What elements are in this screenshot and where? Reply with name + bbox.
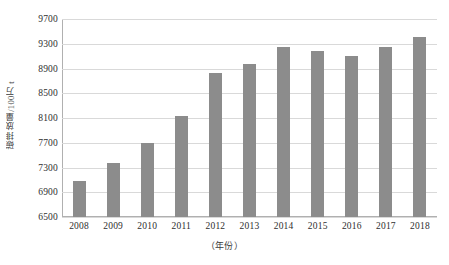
y-axis-tick-label: 7300 — [18, 163, 58, 173]
y-axis-tick-label: 6500 — [18, 212, 58, 222]
x-axis-tick-label: 2013 — [232, 221, 266, 237]
bar-slot — [62, 19, 96, 217]
plot-area — [62, 19, 437, 217]
bar-2014[interactable] — [277, 47, 290, 217]
y-axis-tick-label: 8100 — [18, 113, 58, 123]
x-axis-tick-label: 2010 — [130, 221, 164, 237]
bar-2016[interactable] — [345, 56, 358, 217]
y-axis-tick-label: 9300 — [18, 39, 58, 49]
x-axis-tick-label: 2012 — [198, 221, 232, 237]
x-axis-tick-label: 2018 — [403, 221, 437, 237]
x-axis-tick-labels: 2008200920102011201220132014201520162017… — [62, 221, 437, 237]
bar-2010[interactable] — [141, 143, 154, 217]
x-axis-tick-label: 2011 — [164, 221, 198, 237]
bar-slot — [232, 19, 266, 217]
bar-2009[interactable] — [107, 163, 120, 217]
bar-slot — [301, 19, 335, 217]
bar-2013[interactable] — [243, 64, 256, 217]
bar-2012[interactable] — [209, 73, 222, 217]
bar-slot — [198, 19, 232, 217]
y-axis-tick-label: 6900 — [18, 187, 58, 197]
y-axis-title: 碳排放量/100万 t — [4, 50, 18, 180]
bar-2011[interactable] — [175, 116, 188, 217]
bar-slot — [130, 19, 164, 217]
bar-2008[interactable] — [73, 181, 86, 218]
bar-series — [62, 19, 437, 217]
x-axis-tick-label: 2008 — [62, 221, 96, 237]
x-axis-tick-label: 2017 — [369, 221, 403, 237]
y-axis-tick-labels: 650069007300770081008500890093009700 — [18, 0, 58, 265]
bar-slot — [335, 19, 369, 217]
bar-slot — [164, 19, 198, 217]
bar-2017[interactable] — [379, 47, 392, 217]
y-axis-tick-label: 9700 — [18, 14, 58, 24]
bar-2018[interactable] — [413, 37, 426, 217]
gridline — [62, 217, 437, 218]
bar-slot — [403, 19, 437, 217]
bar-slot — [96, 19, 130, 217]
y-axis-tick-label: 7700 — [18, 138, 58, 148]
bar-slot — [267, 19, 301, 217]
x-axis-tick-label: 2009 — [96, 221, 130, 237]
bar-chart: 碳排放量/100万 t 6500690073007700810085008900… — [0, 0, 449, 265]
bar-slot — [369, 19, 403, 217]
bar-2015[interactable] — [311, 51, 324, 217]
x-axis-tick-label: 2016 — [335, 221, 369, 237]
y-axis-tick-label: 8500 — [18, 88, 58, 98]
x-axis-tick-label: 2014 — [267, 221, 301, 237]
x-axis-title: （年份） — [0, 239, 449, 252]
y-axis-tick-label: 8900 — [18, 64, 58, 74]
x-axis-tick-label: 2015 — [301, 221, 335, 237]
